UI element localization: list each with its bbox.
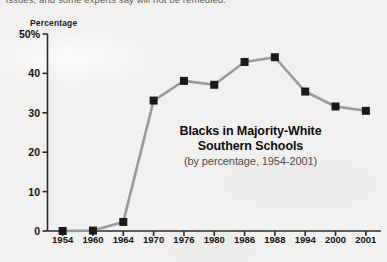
y-axis-tick-label: 10 xyxy=(28,186,40,198)
x-axis-tick-label: 1964 xyxy=(113,234,134,245)
data-markers xyxy=(59,53,370,235)
axis-lines xyxy=(48,34,382,231)
data-point-marker xyxy=(332,102,340,110)
y-axis-tick-label: 40 xyxy=(28,67,40,79)
x-axis-tick-label: 1960 xyxy=(82,234,103,245)
x-axis-tick-label: 1970 xyxy=(143,234,164,245)
x-axis-tick-label: 1980 xyxy=(204,234,225,245)
y-axis-tick-labels: 01020304050% xyxy=(0,0,40,262)
line-chart-plot xyxy=(0,0,387,262)
chart-page: issues, and some experts say will not be… xyxy=(0,0,387,262)
y-axis-tick-label: 50% xyxy=(19,28,40,40)
x-axis-tick-label: 1954 xyxy=(52,234,73,245)
y-axis-tick-label: 0 xyxy=(34,225,40,237)
x-axis-tick-label: 1976 xyxy=(173,234,194,245)
data-point-marker xyxy=(301,88,309,96)
x-axis-tick-label: 1988 xyxy=(264,234,285,245)
data-point-marker xyxy=(210,81,218,89)
data-point-marker xyxy=(180,77,188,85)
x-axis-tick-label: 1994 xyxy=(295,234,316,245)
y-axis-tick-label: 30 xyxy=(28,107,40,119)
x-axis-tick-label: 1986 xyxy=(234,234,255,245)
data-point-marker xyxy=(119,218,127,226)
data-point-marker xyxy=(241,58,249,66)
data-point-marker xyxy=(362,107,370,115)
x-axis-tick-label: 2001 xyxy=(355,234,376,245)
y-axis-tick-label: 20 xyxy=(28,146,40,158)
x-axis-tick-label: 2000 xyxy=(325,234,346,245)
data-point-marker xyxy=(150,97,158,105)
data-point-marker xyxy=(271,53,279,61)
